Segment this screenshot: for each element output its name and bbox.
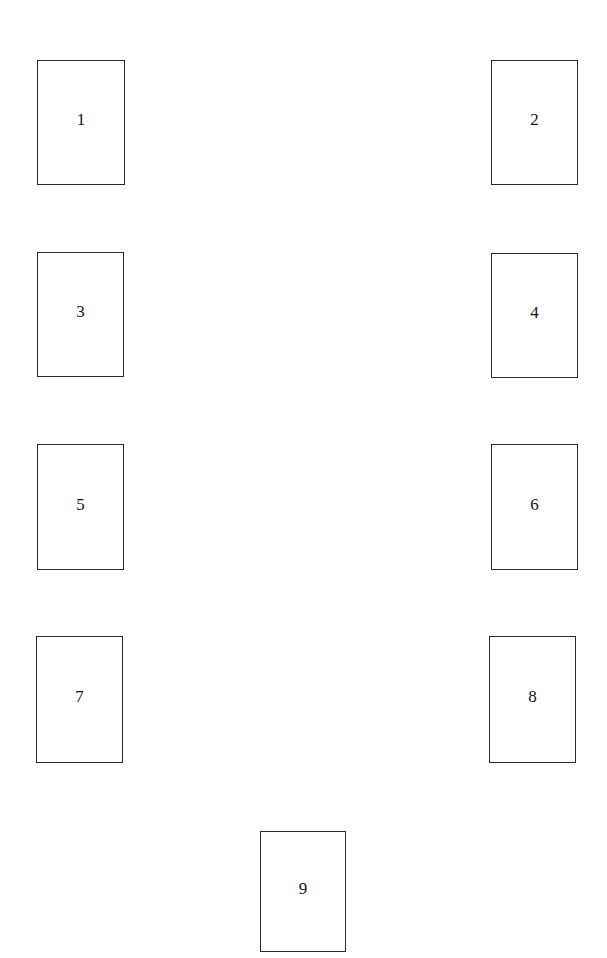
panel-label-4: 4 bbox=[530, 304, 539, 321]
panel-label-8: 8 bbox=[528, 688, 537, 705]
panel-box-8[interactable]: 8 bbox=[489, 636, 576, 763]
figure-canvas: 1 2 3 4 5 6 7 8 9 bbox=[0, 0, 607, 958]
panel-label-7: 7 bbox=[75, 688, 84, 705]
panel-box-5[interactable]: 5 bbox=[37, 444, 124, 570]
panel-label-6: 6 bbox=[530, 496, 539, 513]
panel-label-3: 3 bbox=[76, 303, 85, 320]
panel-label-5: 5 bbox=[76, 496, 85, 513]
panel-box-6[interactable]: 6 bbox=[491, 444, 578, 570]
panel-box-9[interactable]: 9 bbox=[260, 831, 346, 952]
panel-box-3[interactable]: 3 bbox=[37, 252, 124, 377]
panel-box-1[interactable]: 1 bbox=[37, 60, 125, 185]
panel-label-9: 9 bbox=[299, 880, 308, 897]
panel-box-2[interactable]: 2 bbox=[491, 60, 578, 185]
panel-label-2: 2 bbox=[530, 111, 539, 128]
panel-label-1: 1 bbox=[77, 111, 86, 128]
panel-box-4[interactable]: 4 bbox=[491, 253, 578, 378]
panel-box-7[interactable]: 7 bbox=[36, 636, 123, 763]
